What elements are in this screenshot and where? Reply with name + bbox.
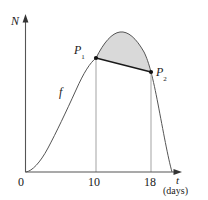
point-label-p2: P2 [156,66,167,81]
point-marker-p2 [149,70,153,74]
y-axis-label: N [11,15,19,27]
tick-label-t18: 18 [144,176,156,188]
graph-figure [0,0,208,200]
y-axis-arrow-icon [23,14,29,23]
point-label-p1: P1 [74,44,85,59]
x-axis-unit-label: (days) [163,186,188,196]
shaded-area-region [96,32,151,72]
point-marker-p1 [94,56,98,60]
tick-label-t10: 10 [88,176,100,188]
curve-f [26,32,172,172]
point-label-p2-subscript: 2 [163,75,167,83]
curve-label-f: f [59,86,62,98]
point-label-p1-subscript: 1 [81,53,85,61]
tick-label-origin: 0 [18,176,24,188]
